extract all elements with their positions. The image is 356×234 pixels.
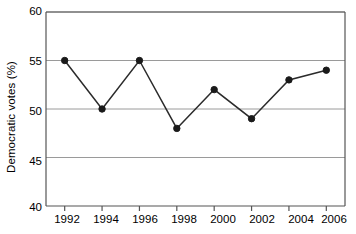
data-point <box>286 77 292 83</box>
data-line <box>65 61 327 129</box>
data-point <box>323 67 329 73</box>
x-axis-ticks <box>65 206 327 211</box>
chart-container: Democratic votes (%) 60 55 50 45 40 1992… <box>0 0 356 234</box>
data-point <box>61 57 67 63</box>
plot-area <box>0 0 356 234</box>
data-point <box>248 116 254 122</box>
series-line <box>65 61 327 129</box>
data-point <box>136 57 142 63</box>
data-point <box>211 86 217 92</box>
gridlines <box>46 12 345 158</box>
data-point <box>99 106 105 112</box>
data-markers <box>61 57 329 131</box>
data-point <box>174 125 180 131</box>
